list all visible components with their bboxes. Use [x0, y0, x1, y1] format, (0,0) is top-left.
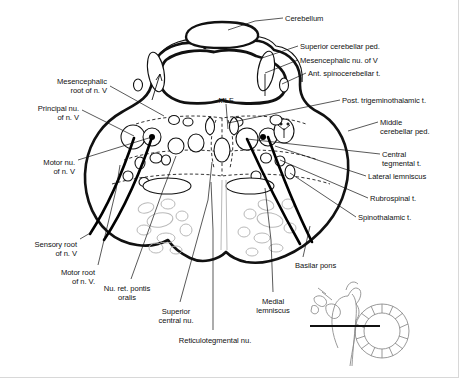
orientation-inset	[310, 282, 409, 366]
label-reticulotegmental-nu: Reticulotegmental nu.	[155, 336, 275, 345]
cerebellum-outline	[186, 22, 258, 48]
pons-section-figure: CerebellumSuperior cerebellar ped.Mesenc…	[0, 0, 459, 378]
leader-sensory-root-of-n-v	[80, 232, 92, 239]
label-lateral-lemniscus: Lateral lemniscus	[368, 172, 426, 181]
inset-midbrain-tectum	[346, 282, 358, 290]
reticulotegmental-nu-midline	[188, 134, 204, 152]
label-medial-lemniscus: Medial lemniscus	[213, 297, 333, 315]
lateral-lemniscus-left	[168, 138, 184, 154]
label-principal-nu-of-n-v: Principal nu. of n. V	[38, 104, 79, 122]
label-basilar-pons: Basilar pons	[295, 261, 336, 270]
inset-cerebellum-inner	[364, 313, 400, 349]
label-mlf: MLF	[166, 96, 286, 105]
label-superior-cerebellar-ped: Superior cerebellar ped.	[300, 42, 380, 51]
label-sensory-root-of-n-v: Sensory root of n. V	[35, 240, 77, 258]
motor-root-origin-right	[260, 134, 266, 140]
mesencephalic-cell-dot-a	[280, 123, 282, 125]
label-cerebellum: Cerebellum	[285, 14, 323, 23]
label-post-trigeminothalamic-t: Post. trigeminothalamic t.	[342, 96, 426, 105]
label-motor-nu-of-n-v: Motor nu. of n. V	[43, 158, 75, 176]
paramedian-nu-left	[183, 118, 193, 126]
lateral-lemniscus-right	[261, 153, 272, 163]
label-ant-spinocerebellar-t: Ant. spinocerebellar t.	[308, 69, 380, 78]
small-nu-left-b	[123, 171, 133, 181]
label-mesencephalic-root-of-n-v: Mesencephalic root of n. V	[57, 77, 107, 95]
small-nu-left-a	[162, 155, 171, 165]
spinothalamic-right	[285, 165, 295, 179]
label-mesencephalic-nu-of-v: Mesencephalic nu. of V	[300, 56, 378, 65]
mesencephalic-cell-dot-b	[287, 123, 289, 125]
ant-spinocerebellar-t-right	[280, 78, 289, 92]
rubrospinal-left	[150, 153, 162, 163]
leader-middle-cerebellar-ped	[348, 122, 378, 131]
label-middle-cerebellar-ped: Middle cerebellar ped.	[380, 118, 430, 136]
label-spinothalamic-t: Spinothalamic t.	[358, 213, 411, 222]
inset-diencephalon-detail-e	[318, 288, 326, 294]
label-central-tegmental-t: Central tegmental t.	[382, 150, 421, 168]
superior-central-nu-midline	[214, 138, 230, 162]
mesencephalic-nu-left	[134, 79, 143, 91]
label-rubrospinal-t: Rubrospinal t.	[370, 194, 416, 203]
label-nu-ret-pontis-oralis: Nu. ret. pontis oralis	[67, 284, 187, 302]
central-tegmental-left	[169, 116, 180, 125]
